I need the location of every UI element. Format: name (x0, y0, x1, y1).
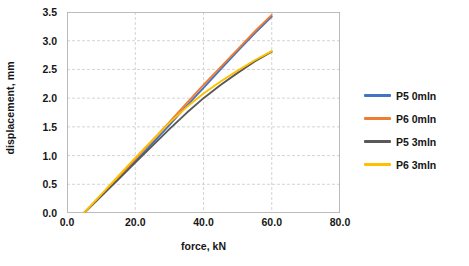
legend-item[interactable]: P5 0mln (364, 84, 469, 107)
x-tick-label: 60.0 (262, 216, 282, 228)
y-tick-label: 1.0 (18, 150, 62, 162)
legend-swatch-icon (364, 140, 391, 143)
series-line-4 (84, 51, 272, 213)
x-axis-title-text: force, kN (181, 240, 226, 252)
y-axis-title-text: displacement, mm (4, 61, 16, 154)
grid-lines (67, 12, 340, 213)
x-tick-label: 0.0 (60, 216, 75, 228)
y-tick-label: 3.0 (18, 35, 62, 47)
legend-item[interactable]: P6 0mln (364, 107, 469, 130)
line-chart: displacement, mm 0.00.51.01.52.02.53.03.… (0, 0, 469, 266)
y-tick-label: 2.0 (18, 92, 62, 104)
legend-swatch-icon (364, 117, 391, 120)
x-tick-label: 40.0 (193, 216, 213, 228)
x-axis-tick-labels: 0.020.040.060.080.0 (0, 216, 469, 236)
x-axis-title: force, kN (67, 240, 340, 252)
legend-item-label: P5 3mln (396, 136, 436, 148)
legend-item-label: P6 3mln (396, 159, 436, 171)
y-axis-title: displacement, mm (0, 0, 20, 215)
y-tick-label: 0.5 (18, 178, 62, 190)
y-tick-label: 2.5 (18, 63, 62, 75)
x-tick-label: 20.0 (125, 216, 145, 228)
y-tick-label: 1.5 (18, 121, 62, 133)
chart-legend: P5 0mlnP6 0mlnP5 3mlnP6 3mln (364, 84, 469, 176)
legend-item[interactable]: P6 3mln (364, 153, 469, 176)
series-line-3 (84, 52, 272, 213)
x-tick-label: 80.0 (330, 216, 350, 228)
plot-area (67, 12, 340, 213)
legend-item-label: P5 0mln (396, 90, 436, 102)
legend-item[interactable]: P5 3mln (364, 130, 469, 153)
legend-item-label: P6 0mln (396, 113, 436, 125)
y-tick-label: 3.5 (18, 6, 62, 18)
legend-swatch-icon (364, 94, 391, 97)
plot-svg (67, 12, 340, 213)
data-series-layer (84, 15, 272, 213)
legend-swatch-icon (364, 163, 391, 166)
